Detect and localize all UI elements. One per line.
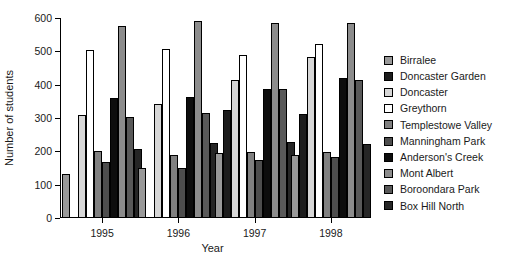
plot-area: 0100200300400500600 1995199619971998 [60,18,365,218]
legend-swatch-icon [384,169,393,178]
bar[interactable] [94,151,102,218]
bar[interactable] [339,78,347,218]
y-tick-mark [55,151,60,152]
legend-item[interactable]: Doncaster Garden [384,68,529,84]
x-tick-label: 1998 [319,228,342,239]
bar[interactable] [255,160,263,218]
bar[interactable] [126,117,134,218]
legend-swatch-icon [384,56,393,65]
bar[interactable] [162,49,170,218]
legend-item-label: Templestowe Valley [400,120,492,131]
y-tick-mark [55,18,60,19]
legend-swatch-icon [384,201,393,210]
legend-item[interactable]: Doncaster [384,84,529,100]
bar[interactable] [299,114,307,218]
bar[interactable] [239,55,247,218]
y-tick-mark [55,85,60,86]
x-tick-mark [102,218,103,223]
bar[interactable] [323,152,331,218]
legend-swatch-icon [384,104,393,113]
bar-group: 1998 [291,18,371,218]
y-axis-title: Number of students [2,18,16,218]
bar[interactable] [186,97,194,218]
legend-swatch-icon [384,120,393,129]
bar-group: 1997 [215,18,295,218]
y-axis-line [60,18,61,218]
bar[interactable] [78,115,86,218]
bar[interactable] [154,104,162,218]
bar[interactable] [110,98,118,218]
bar-group: 1995 [62,18,142,218]
legend-item[interactable]: Birralee [384,52,529,68]
legend-item[interactable]: Templestowe Valley [384,117,529,133]
bar[interactable] [263,89,271,218]
bar[interactable] [62,174,70,218]
x-tick-mark [255,218,256,223]
x-tick-label: 1995 [90,228,113,239]
legend-item-label: Birralee [400,55,436,66]
bar-group-bars [215,18,295,218]
bar[interactable] [355,80,363,218]
bar[interactable] [118,26,126,218]
bar[interactable] [271,23,279,218]
legend-swatch-icon [384,153,393,162]
y-tick-label: 300 [34,113,52,124]
legend-item-label: Doncaster Garden [400,71,486,82]
legend-item-label: Mont Albert [400,168,453,179]
y-tick-label: 200 [34,146,52,157]
legend-item-label: Doncaster [400,87,448,98]
bar[interactable] [215,153,223,218]
bar[interactable] [138,168,146,218]
legend-swatch-icon [384,72,393,81]
legend-swatch-icon [384,137,393,146]
legend-item-label: Manningham Park [400,136,485,147]
bar[interactable] [347,23,355,218]
y-tick-mark [55,118,60,119]
bar[interactable] [223,110,231,218]
legend-swatch-icon [384,185,393,194]
y-tick-label: 500 [34,46,52,57]
bar[interactable] [86,50,94,218]
legend-item[interactable]: Boroondara Park [384,182,529,198]
bar-group-bars [291,18,371,218]
legend-item-label: Boroondara Park [400,184,479,195]
y-tick-mark [55,51,60,52]
bar[interactable] [202,113,210,218]
chart-legend: BirraleeDoncaster GardenDoncasterGreytho… [384,52,529,214]
legend-item[interactable]: Mont Albert [384,165,529,181]
bar[interactable] [307,57,315,218]
x-tick-mark [331,218,332,223]
x-axis-title: Year [60,243,365,254]
bar[interactable] [315,44,323,218]
bar-group-bars [138,18,218,218]
bar[interactable] [231,80,239,218]
y-tick-label: 100 [34,179,52,190]
legend-swatch-icon [384,88,393,97]
y-tick-label: 400 [34,79,52,90]
bar-group-bars [62,18,142,218]
bar[interactable] [170,155,178,218]
y-tick-mark [55,218,60,219]
legend-item-label: Anderson's Creek [400,152,483,163]
bar[interactable] [102,162,110,218]
x-tick-mark [178,218,179,223]
bar[interactable] [279,89,287,218]
y-tick-mark [55,185,60,186]
bar[interactable] [331,157,339,218]
legend-item[interactable]: Box Hill North [384,198,529,214]
bar[interactable] [247,152,255,218]
legend-item[interactable]: Greythorn [384,101,529,117]
bar[interactable] [194,21,202,218]
y-axis-title-text: Number of students [2,18,16,218]
legend-item-label: Box Hill North [400,201,464,212]
y-tick-label: 0 [46,213,52,224]
chart-root: Number of students 0100200300400500600 1… [0,0,531,269]
bar[interactable] [178,168,186,218]
x-tick-label: 1996 [167,228,190,239]
bar[interactable] [363,144,371,218]
legend-item[interactable]: Manningham Park [384,133,529,149]
x-tick-label: 1997 [243,228,266,239]
legend-item[interactable]: Anderson's Creek [384,149,529,165]
bar-group: 1996 [138,18,218,218]
bar[interactable] [291,155,299,218]
